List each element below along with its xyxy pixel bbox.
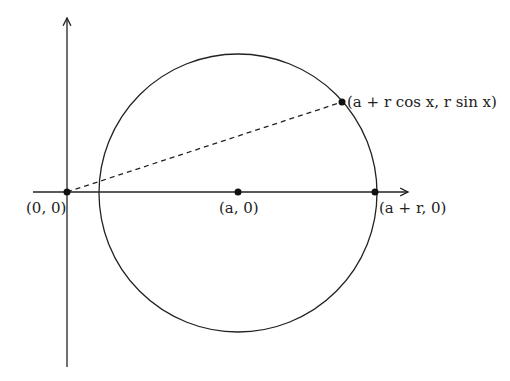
dashed-radius-line bbox=[67, 102, 342, 192]
circle-point-label: (a + r cos x, r sin x) bbox=[347, 95, 497, 110]
center-point bbox=[235, 189, 242, 196]
right-point bbox=[372, 189, 379, 196]
origin-point bbox=[64, 189, 71, 196]
origin-label: (0, 0) bbox=[26, 201, 66, 216]
circle-point bbox=[339, 99, 346, 106]
diagram-canvas bbox=[0, 0, 510, 381]
center-label: (a, 0) bbox=[219, 201, 259, 216]
right-point-label: (a + r, 0) bbox=[379, 201, 446, 216]
